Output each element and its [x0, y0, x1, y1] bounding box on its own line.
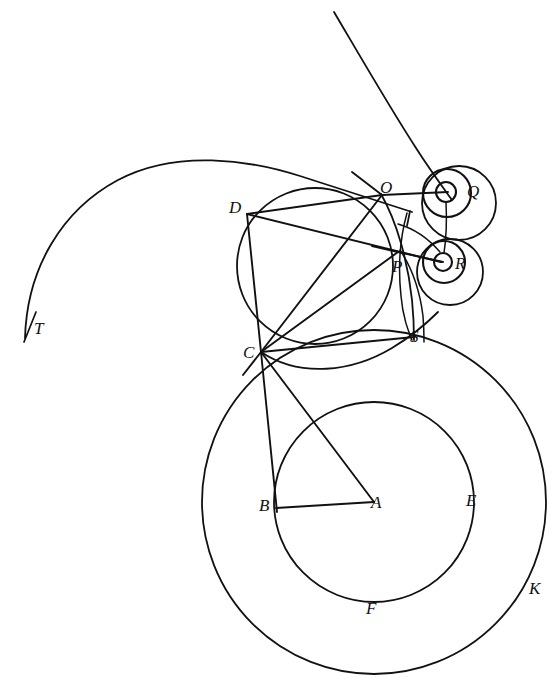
ray-left-from-P	[372, 246, 398, 252]
spiral-arc-ending-at-T	[25, 160, 412, 338]
point-label-C: C	[243, 344, 254, 361]
segment-O-C	[261, 195, 382, 352]
point-label-E: E	[466, 492, 476, 509]
point-label-A: A	[371, 494, 381, 511]
point-label-R: R	[455, 255, 465, 272]
point-label-Q: Q	[467, 183, 479, 200]
geometry-diagram	[0, 0, 559, 697]
segment-D-C	[247, 214, 261, 352]
point-label-F: F	[366, 600, 376, 617]
circle-Q-large	[422, 166, 496, 240]
point-label-S: S	[410, 328, 419, 345]
figure-root: T D O Q P R C S B A E F K	[0, 0, 559, 697]
point-label-D: D	[229, 199, 241, 216]
point-label-P: P	[392, 258, 402, 275]
segment-C-P	[261, 252, 398, 352]
segment-C-A	[261, 352, 374, 502]
segment-B-A	[276, 502, 374, 508]
point-label-B: B	[259, 497, 269, 514]
point-label-O: O	[380, 179, 392, 196]
ray-up-left-from-O	[352, 172, 382, 195]
segment-C-B	[261, 352, 277, 512]
arc-O-region-to-R	[398, 224, 440, 252]
connector-q-to-r	[444, 202, 446, 253]
point-label-K: K	[529, 580, 540, 597]
arc-from-P-to-S	[400, 213, 412, 340]
segment-C-S	[261, 337, 414, 352]
point-label-T: T	[34, 320, 43, 337]
